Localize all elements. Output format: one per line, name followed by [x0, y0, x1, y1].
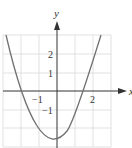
x-tick-neg1: −1 — [32, 94, 43, 105]
x-axis-label: x — [128, 85, 132, 97]
axes — [3, 21, 127, 148]
x-tick-2: 2 — [90, 94, 95, 105]
y-tick-1: 1 — [48, 68, 53, 79]
x-axis-arrow-icon — [118, 88, 127, 94]
y-axis-label: y — [53, 7, 59, 19]
y-tick-neg1: −1 — [42, 105, 53, 116]
y-tick-2: 2 — [48, 49, 53, 60]
parabola-graph: y x 2 1 −1 2 −1 — [0, 0, 132, 148]
parabola-curve — [6, 35, 101, 139]
y-axis-arrow-icon — [54, 21, 60, 30]
